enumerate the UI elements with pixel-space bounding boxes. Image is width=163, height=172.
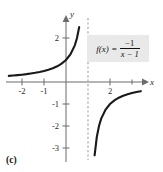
x-ticklabel-minus-1: -1 bbox=[40, 86, 47, 96]
formula-numerator: −1 bbox=[124, 39, 135, 48]
y-ticklabel-2: 2 bbox=[55, 33, 59, 43]
function-formula-label: f(x) = −1 x − 1 bbox=[87, 35, 149, 62]
y-ticklabel-minus-3: -3 bbox=[52, 143, 59, 153]
curve-right-branch bbox=[95, 91, 141, 155]
x-ticklabel-minus-2: -2 bbox=[18, 86, 25, 96]
formula-fraction: −1 x − 1 bbox=[120, 39, 140, 59]
figure-panel: -2 -1 2 2 -1 -2 -3 x y f(x) = −1 x − 1 (… bbox=[0, 0, 163, 172]
function-graph: -2 -1 2 2 -1 -2 -3 x y bbox=[0, 0, 163, 172]
x-axis-arrowhead bbox=[142, 79, 149, 86]
formula-denominator: x − 1 bbox=[120, 50, 140, 59]
y-ticklabel-minus-2: -2 bbox=[52, 121, 59, 131]
figure-caption: (c) bbox=[6, 155, 17, 165]
x-axis-label: x bbox=[149, 77, 154, 87]
curve-left-branch bbox=[9, 27, 79, 76]
x-ticklabel-2: 2 bbox=[108, 86, 112, 96]
y-ticklabel-minus-1: -1 bbox=[52, 99, 59, 109]
formula-equals-sign: = bbox=[112, 44, 117, 54]
y-axis-label: y bbox=[69, 9, 74, 19]
y-axis-arrowhead bbox=[63, 15, 70, 22]
formula-left-side: f(x) bbox=[96, 44, 109, 54]
